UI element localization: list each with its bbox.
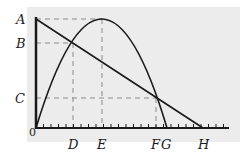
label-D: D <box>67 137 79 152</box>
label-C: C <box>15 91 25 106</box>
diagram: A B C 0 D E F G H <box>0 0 246 155</box>
origin-label: 0 <box>29 126 36 139</box>
label-A: A <box>15 12 25 27</box>
label-E: E <box>96 137 107 152</box>
label-H: H <box>197 137 210 152</box>
label-G: G <box>161 137 171 152</box>
plot-panel <box>27 7 240 142</box>
label-F: F <box>150 137 161 152</box>
label-B: B <box>15 36 26 51</box>
